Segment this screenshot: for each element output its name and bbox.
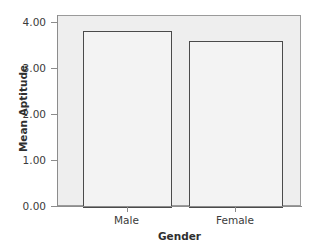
y-tick-mark-3 [51,68,57,69]
x-axis-line [57,206,302,207]
y-tick-label-4: 4.00 [0,17,46,28]
y-axis-line [57,15,58,207]
x-tick-mark-male [127,207,128,212]
bar-male [83,31,172,208]
x-tick-label-male: Male [77,215,177,226]
y-tick-label-0: 0.00 [0,201,46,212]
x-tick-label-female: Female [185,215,285,226]
bar-female [189,41,283,208]
y-tick-mark-1 [51,160,57,161]
plot-area [57,15,301,206]
bar-chart-figure: 4.00 3.00 2.00 1.00 0.00 Male Female Mea… [0,0,319,247]
x-tick-mark-female [235,207,236,212]
y-tick-mark-2 [51,114,57,115]
y-tick-mark-4 [51,22,57,23]
x-axis-title: Gender [57,231,302,242]
y-axis-title: Mean Aptitude [18,39,29,179]
